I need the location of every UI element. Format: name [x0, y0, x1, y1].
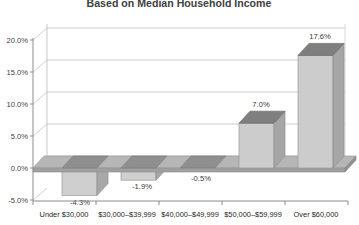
data-label-40000-49999: -0.5% [191, 174, 211, 183]
data-label-over-60000: 17.6% [309, 32, 331, 41]
data-label-under-30000: -4.3% [70, 198, 90, 207]
bar-front-face [239, 123, 274, 168]
data-label-30000-39999: -1.9% [132, 182, 152, 191]
negative-bar-tops [62, 156, 226, 168]
bar-50000-59999[interactable] [239, 111, 285, 168]
y-axis-label-neg5: -5.0% [8, 196, 28, 205]
chart-title: Based on Median Household Income [87, 0, 272, 9]
x-axis-label-3: $50,000–$59,999 [224, 210, 282, 219]
y-axis-label-15: 15.0% [6, 68, 28, 77]
x-axis-label-0: Under $30,000 [40, 210, 89, 219]
x-axis-labels: Under $30,000 $30,000–$39,999 $40,000–$4… [40, 210, 339, 219]
bar-over-60000[interactable] [298, 43, 344, 168]
y-axis-label-0: 0.0% [11, 164, 29, 173]
x-axis-label-1: $30,000–$39,999 [98, 210, 156, 219]
y-axis-label-20: 20.0% [6, 36, 28, 45]
bar-side-face [333, 43, 344, 168]
floor-front-band [33, 168, 345, 172]
bar-front-face [298, 55, 333, 168]
x-axis-label-4: Over $60,000 [294, 210, 339, 219]
y-axis-label-5: 5.0% [11, 132, 29, 141]
y-axis-label-10: 10.0% [6, 100, 28, 109]
chart-container: Based on Median Household Income [0, 0, 359, 225]
x-axis-label-2: $40,000–$49,999 [161, 210, 219, 219]
column-chart-3d: Based on Median Household Income [0, 0, 359, 225]
data-label-50000-59999: 7.0% [252, 100, 270, 109]
